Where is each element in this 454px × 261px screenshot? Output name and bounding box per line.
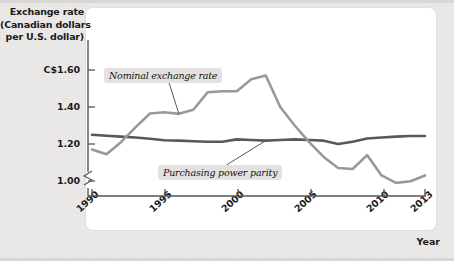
y-axis-break-icon [84,171,92,185]
annotation-leader-ppp [226,141,265,165]
annotation-label-purchasing-power-parity: Purchasing power parity [158,165,282,180]
series-line-purchasing-power-parity [92,135,425,144]
x-tick-marks [92,189,425,196]
annotation-label-nominal-exchange-rate: Nominal exchange rate [104,68,222,83]
annotation-leader-nominal [169,83,179,114]
chart-plot-area [0,0,454,261]
y-tick-marks [88,70,95,181]
